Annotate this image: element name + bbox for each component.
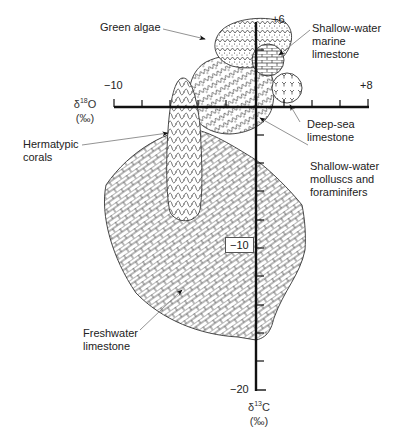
label-line: Shallow-water xyxy=(310,160,379,172)
label-line: Green algae xyxy=(100,21,161,33)
x-max-label: +8 xyxy=(360,79,373,91)
label-shallow-water-molluscs: Shallow-water molluscs and foraminifers xyxy=(310,160,379,199)
x-axis-element: O xyxy=(88,98,97,110)
label-line: Shallow-water xyxy=(312,22,381,34)
field-freshwater-limestone xyxy=(104,130,305,340)
label-line: limestone xyxy=(312,48,359,60)
label-line: Hermatypic xyxy=(23,138,79,150)
label-shallow-water-marine-limestone: Shallow-water marine limestone xyxy=(312,22,381,61)
field-deep-sea-limestone xyxy=(272,73,302,103)
label-hermatypic-corals: Hermatypic corals xyxy=(23,138,79,164)
label-line: foraminifers xyxy=(310,186,367,198)
x-axis-isotope: 18 xyxy=(80,97,88,104)
label-line: limestone xyxy=(83,340,130,352)
label-line: Deep-sea xyxy=(307,118,355,130)
x-min-label: −10 xyxy=(104,79,123,91)
leader-molluscs xyxy=(260,118,308,145)
label-line: molluscs and xyxy=(310,173,374,185)
y-axis-unit: (‰) xyxy=(250,415,268,427)
label-freshwater-limestone: Freshwater limestone xyxy=(83,327,138,353)
isotope-diagram xyxy=(0,0,393,435)
y-mid-label: −10 xyxy=(225,237,254,253)
x-axis-unit: (‰) xyxy=(76,112,94,124)
label-deep-sea-limestone: Deep-sea limestone xyxy=(307,118,355,144)
y-axis-element: C xyxy=(262,401,270,413)
x-axis-title: δ18O (‰) xyxy=(70,94,100,125)
label-line: corals xyxy=(23,151,52,163)
label-line: Freshwater xyxy=(83,327,138,339)
leader-green-algae xyxy=(163,29,205,39)
y-min-label: −20 xyxy=(230,383,249,395)
label-green-algae: Green algae xyxy=(100,21,161,34)
label-line: marine xyxy=(312,35,346,47)
y-axis-title: δ13C (‰) xyxy=(244,397,274,428)
label-line: limestone xyxy=(307,131,354,143)
y-axis-isotope: 13 xyxy=(254,400,262,407)
y-max-label: +6 xyxy=(272,13,285,25)
